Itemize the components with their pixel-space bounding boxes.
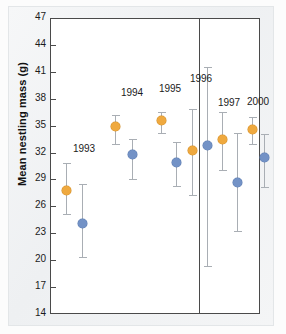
- error-bar-cap-upper: [129, 139, 137, 140]
- plot-area: [50, 18, 260, 314]
- error-bar-cap-lower: [173, 186, 181, 187]
- y-tick-mark: [50, 287, 56, 288]
- error-bar-cap-upper: [261, 134, 269, 135]
- data-point-marker: [233, 178, 242, 187]
- error-bar-cap-lower: [234, 231, 242, 232]
- error-bar-cap-upper: [79, 184, 87, 185]
- data-point-marker: [260, 153, 269, 162]
- data-point-marker: [128, 150, 137, 159]
- year-label-1996: 1996: [190, 73, 212, 84]
- y-tick-label: 17: [6, 280, 46, 291]
- year-label-1997: 1997: [218, 97, 240, 108]
- error-bar: [207, 67, 208, 266]
- y-tick-mark: [50, 206, 56, 207]
- error-bar-cap-lower: [219, 170, 227, 171]
- error-bar-cap-lower: [79, 257, 87, 258]
- error-bar-cap-upper: [249, 117, 257, 118]
- error-bar-cap-lower: [261, 187, 269, 188]
- error-bar-cap-lower: [204, 266, 212, 267]
- data-point-marker: [218, 135, 227, 144]
- data-point-marker: [157, 116, 166, 125]
- y-tick-label: 38: [6, 92, 46, 103]
- data-point-marker: [62, 186, 71, 195]
- data-point-marker: [203, 141, 212, 150]
- error-bar-cap-lower: [112, 144, 120, 145]
- y-tick-label: 44: [6, 38, 46, 49]
- data-point-marker: [188, 146, 197, 155]
- y-tick-label: 32: [6, 146, 46, 157]
- y-tick-mark: [50, 233, 56, 234]
- y-tick-label: 47: [6, 11, 46, 22]
- error-bar-cap-upper: [189, 109, 197, 110]
- error-bar-cap-lower: [189, 195, 197, 196]
- y-tick-label: 14: [6, 307, 46, 318]
- error-bar-cap-upper: [219, 112, 227, 113]
- error-bar-cap-lower: [63, 214, 71, 215]
- error-bar-cap-lower: [129, 179, 137, 180]
- error-bar-cap-upper: [112, 115, 120, 116]
- year-label-1995: 1995: [159, 83, 181, 94]
- y-tick-mark: [50, 72, 56, 73]
- y-tick-mark: [50, 45, 56, 46]
- y-tick-mark: [50, 126, 56, 127]
- data-point-marker: [172, 158, 181, 167]
- year-label-2000: 2000: [247, 96, 269, 107]
- y-tick-label: 35: [6, 119, 46, 130]
- y-tick-mark: [50, 179, 56, 180]
- data-point-marker: [248, 125, 257, 134]
- y-tick-label: 29: [6, 172, 46, 183]
- year-label-1994: 1994: [121, 87, 143, 98]
- y-tick-label: 23: [6, 226, 46, 237]
- figure-root: Mean nestling mass (g) 47444138353229262…: [0, 0, 286, 334]
- panel-divider-line: [199, 18, 200, 314]
- error-bar-cap-lower: [249, 144, 257, 145]
- year-label-1993: 1993: [73, 143, 95, 154]
- error-bar-cap-upper: [204, 67, 212, 68]
- y-tick-mark: [50, 260, 56, 261]
- error-bar-cap-lower: [158, 133, 166, 134]
- data-point-marker: [111, 122, 120, 131]
- error-bar-cap-upper: [63, 163, 71, 164]
- y-tick-label: 26: [6, 199, 46, 210]
- y-tick-mark: [50, 99, 56, 100]
- y-tick-mark: [50, 153, 56, 154]
- error-bar-cap-upper: [158, 112, 166, 113]
- error-bar-cap-upper: [234, 133, 242, 134]
- y-tick-label: 20: [6, 253, 46, 264]
- error-bar-cap-upper: [173, 142, 181, 143]
- y-tick-label: 41: [6, 65, 46, 76]
- data-point-marker: [78, 219, 87, 228]
